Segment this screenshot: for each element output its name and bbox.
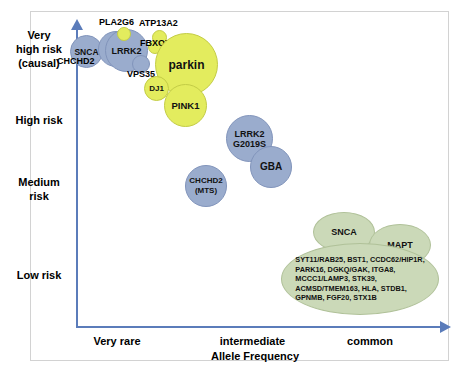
bubble-label-chchd2: CHCHD2 bbox=[57, 56, 95, 66]
bubble-gba: GBA bbox=[250, 146, 292, 188]
gwas-gene-list: SYT11/RAB25, BST1, CCDC62/HIP1R, PARK16,… bbox=[295, 255, 424, 302]
bubble-gwas-loci-cluster: SYT11/RAB25, BST1, CCDC62/HIP1R, PARK16,… bbox=[281, 243, 439, 315]
x-axis-arrow-icon bbox=[440, 321, 451, 333]
bubble-label-atp13a2: ATP13A2 bbox=[139, 18, 178, 28]
x-axis-tick-common: common bbox=[330, 335, 410, 347]
x-axis-tick-intermediate: intermediate bbox=[205, 335, 300, 347]
y-axis-label-medium-risk: Mediumrisk bbox=[5, 175, 73, 203]
y-axis-line bbox=[76, 28, 78, 328]
y-axis-label-high-risk: High risk bbox=[5, 113, 73, 127]
bubble-label-lrrk2-g2019s-line2: G2019S bbox=[233, 139, 266, 149]
bubble-label-chchd2-mts-line2: (MTS) bbox=[195, 186, 217, 196]
bubble-label-chchd2-mts-line1: CHCHD2 bbox=[189, 176, 222, 186]
x-axis-tick-very-rare: Very rare bbox=[72, 335, 162, 347]
bubble-label-pla2g6: PLA2G6 bbox=[99, 17, 134, 27]
y-axis-label-low-risk: Low risk bbox=[5, 268, 73, 282]
bubble-chchd2-mts: CHCHD2 (MTS) bbox=[185, 165, 227, 207]
x-axis-line bbox=[76, 326, 448, 328]
risk-allele-frequency-figure: Veryhigh risk(causal) High risk Mediumri… bbox=[0, 0, 461, 379]
bubble-pla2g6 bbox=[117, 27, 131, 41]
x-axis-title: Allele Frequency bbox=[190, 350, 320, 362]
bubble-label-lrrk2-g2019s-line1: LRRK2 bbox=[234, 129, 264, 139]
bubble-pink1: PINK1 bbox=[164, 84, 207, 127]
